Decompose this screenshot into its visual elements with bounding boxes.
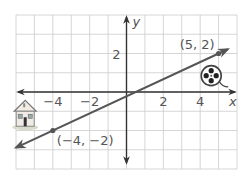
point-label: (−4, −2) bbox=[57, 133, 114, 148]
x-tick-label: 4 bbox=[196, 94, 204, 109]
data-point bbox=[216, 51, 221, 56]
y-axis-label: y bbox=[132, 14, 141, 29]
y-tick-label: 2 bbox=[112, 47, 120, 62]
coordinate-plane: −4 −2 2 4 2 x y (5, 2) (−4, −2) bbox=[0, 0, 251, 177]
point-label: (5, 2) bbox=[180, 37, 215, 52]
x-axis-label: x bbox=[228, 94, 237, 109]
tick-labels: −4 −2 2 4 2 x y bbox=[43, 14, 237, 109]
x-tick-label: −4 bbox=[43, 94, 62, 109]
data-point bbox=[50, 128, 55, 133]
film-reel-icon bbox=[201, 66, 228, 87]
x-tick-label: 2 bbox=[159, 94, 167, 109]
x-tick-label: −2 bbox=[80, 94, 99, 109]
